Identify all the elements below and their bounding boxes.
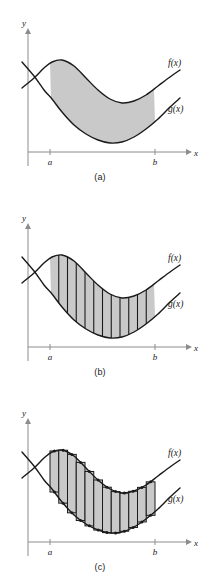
svg-text:y: y (21, 213, 26, 223)
svg-text:y: y (21, 408, 26, 418)
svg-text:b: b (153, 352, 158, 362)
panel-b: abyxf(x)g(x) (b) (0, 195, 200, 390)
svg-text:g(x): g(x) (168, 494, 183, 505)
svg-text:g(x): g(x) (168, 104, 183, 115)
svg-text:a: a (48, 157, 53, 167)
panel-a-diagram: abyxf(x)g(x) (0, 0, 200, 175)
panel-a: abyxf(x)g(x) (a) (0, 0, 200, 195)
svg-text:y: y (21, 18, 26, 28)
svg-text:x: x (193, 538, 198, 548)
panel-c: abyxf(x)g(x) (c) (0, 390, 200, 585)
svg-text:f(x): f(x) (168, 448, 181, 459)
panel-b-caption: (b) (0, 367, 200, 377)
svg-text:g(x): g(x) (168, 299, 183, 310)
svg-text:b: b (153, 157, 158, 167)
svg-text:b: b (153, 547, 158, 557)
svg-text:a: a (48, 547, 53, 557)
svg-text:x: x (193, 343, 198, 353)
panel-c-diagram: abyxf(x)g(x) (0, 390, 200, 565)
svg-text:x: x (193, 148, 198, 158)
svg-text:a: a (48, 352, 53, 362)
panel-a-caption: (a) (0, 172, 200, 182)
panel-c-caption: (c) (0, 562, 200, 572)
panel-b-diagram: abyxf(x)g(x) (0, 195, 200, 370)
svg-text:f(x): f(x) (168, 253, 181, 264)
svg-text:f(x): f(x) (168, 58, 181, 69)
